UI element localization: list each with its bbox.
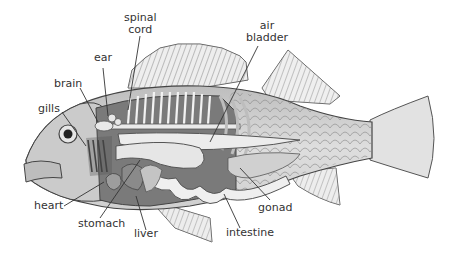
label-heart: heart (34, 200, 63, 212)
label-air-bladder: air bladder (246, 20, 288, 44)
fish-anatomy-diagram: spinal cord air bladder ear brain gills … (0, 0, 452, 262)
label-intestine: intestine (226, 227, 274, 239)
label-liver: liver (134, 228, 158, 240)
label-stomach: stomach (78, 218, 125, 230)
label-spinal-cord: spinal cord (124, 12, 157, 36)
label-ear: ear (94, 52, 112, 64)
label-gills: gills (38, 103, 60, 115)
caudal-fin (370, 96, 434, 178)
label-brain: brain (54, 78, 82, 90)
fish-illustration (0, 0, 452, 262)
brain (95, 121, 113, 131)
label-gonad: gonad (258, 202, 292, 214)
